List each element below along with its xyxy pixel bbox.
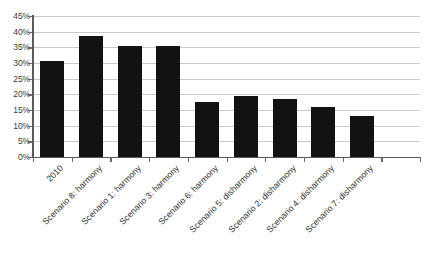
bar	[40, 61, 64, 157]
x-axis-category-label[interactable]: Scenario 4: disharmony	[265, 163, 337, 235]
x-axis-tick	[33, 158, 34, 162]
y-axis-tick-label: 5%	[0, 137, 30, 146]
bar	[234, 96, 258, 157]
bar	[118, 46, 142, 157]
x-axis-category-label[interactable]: Scenario 5: disharmony	[187, 163, 259, 235]
x-axis-tick	[381, 158, 382, 162]
x-axis-category-label[interactable]: Scenario 7: disharmony	[303, 163, 375, 235]
x-axis-tick	[420, 158, 421, 162]
bar-chart: 45% 40% 35% 30% 25% 20% 15% 10% 5% 0% 20…	[0, 0, 430, 265]
y-axis-tick-labels: 45% 40% 35% 30% 25% 20% 15% 10% 5% 0%	[0, 0, 30, 165]
y-axis-tick-label: 25%	[0, 74, 30, 83]
x-axis-category-label[interactable]: 2010	[45, 163, 66, 184]
bar	[350, 116, 374, 157]
x-axis-tick	[149, 158, 150, 162]
y-axis-tick-label: 20%	[0, 90, 30, 99]
bar	[156, 46, 180, 157]
bar	[311, 107, 335, 157]
y-axis-tick-label: 40%	[0, 27, 30, 36]
y-axis-tick-label: 0%	[0, 153, 30, 162]
x-axis-category-label[interactable]: Scenario 2: disharmony	[226, 163, 298, 235]
y-axis-tick-label: 45%	[0, 12, 30, 21]
x-axis-tick	[265, 158, 266, 162]
x-axis-tick	[188, 158, 189, 162]
x-axis-tick	[304, 158, 305, 162]
bar	[195, 102, 219, 157]
y-axis-tick-label: 15%	[0, 106, 30, 115]
x-axis-tick	[227, 158, 228, 162]
y-axis-tick-label: 35%	[0, 43, 30, 52]
y-axis-tick-label: 10%	[0, 121, 30, 130]
bar	[79, 36, 103, 157]
x-axis-tick	[343, 158, 344, 162]
x-axis-tick	[110, 158, 111, 162]
y-axis-tick-label: 30%	[0, 59, 30, 68]
x-axis-tick	[72, 158, 73, 162]
bar-series	[33, 16, 420, 157]
bar	[273, 99, 297, 157]
